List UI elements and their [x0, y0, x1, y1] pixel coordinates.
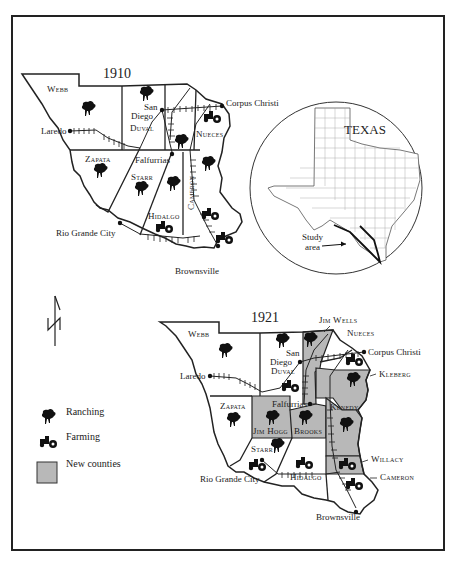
- county-label-hidalgo-1921: Hidalgo: [290, 472, 322, 482]
- map-1921: 1921: [160, 310, 421, 522]
- county-label-cameron-1921: Cameron: [380, 472, 414, 482]
- city-label-diego-1921: Diego: [270, 357, 292, 367]
- city-label-rio-grande-city-1921: Rio Grande City: [200, 474, 260, 484]
- city-label-corpus-christi-1921: Corpus Christi: [368, 347, 421, 357]
- county-label-brooks: Brooks: [294, 426, 322, 436]
- county-label-kenedy: Kenedy: [330, 402, 359, 412]
- map-1910: 1910: [22, 66, 279, 276]
- map-1910-year: 1910: [103, 66, 131, 81]
- legend-label-new-counties: New counties: [66, 458, 121, 469]
- county-label-nueces: Nueces: [196, 129, 223, 139]
- inset-pointer-label-2: area: [305, 242, 320, 252]
- city-label-diego: Diego: [131, 111, 153, 121]
- legend-label-farming: Farming: [66, 431, 100, 442]
- legend-icons: [37, 409, 57, 483]
- city-label-brownsville-1921: Brownsville: [316, 512, 360, 522]
- city-label-falfurrias: Falfurrias: [135, 155, 170, 165]
- city-label-corpus-christi: Corpus Christi: [226, 98, 279, 108]
- texas-inset: TEXAS Study area: [250, 102, 422, 274]
- county-label-webb-1921: Webb: [188, 329, 209, 339]
- county-label-kleberg: Kleberg: [379, 369, 411, 379]
- city-label-laredo-1921: Laredo: [180, 371, 206, 381]
- inset-pointer-label-1: Study: [302, 232, 324, 242]
- county-label-zapata: Zapata: [85, 154, 111, 164]
- county-label-duval-1921: Duval: [271, 366, 295, 376]
- farming-icon: [40, 436, 57, 448]
- city-label-falfurrias-1921: Falfurrias: [272, 399, 307, 409]
- county-label-nueces-1921: Nueces: [347, 328, 374, 338]
- city-label-brownsville: Brownsville: [175, 266, 219, 276]
- new-counties-swatch: [37, 462, 57, 483]
- county-label-cameron: Cameron: [186, 176, 196, 210]
- inset-title: TEXAS: [344, 122, 386, 137]
- map-1921-year: 1921: [251, 310, 279, 325]
- county-label-zapata-1921: Zapata: [220, 401, 246, 411]
- county-label-jim-hogg: Jim Hogg: [253, 426, 288, 436]
- city-label-rio-grande-city: Rio Grande City: [56, 228, 116, 238]
- legend-label-ranching: Ranching: [66, 406, 104, 417]
- county-label-hidalgo: Hidalgo: [148, 211, 180, 221]
- county-label-starr: Starr: [131, 172, 153, 182]
- map-canvas: 1910: [0, 0, 458, 566]
- city-label-laredo: Laredo: [41, 126, 67, 136]
- county-label-duval: Duval: [130, 123, 154, 133]
- ranching-icon: [42, 409, 56, 424]
- county-label-starr-1921: Starr: [251, 444, 273, 454]
- county-label-willacy: Willacy: [371, 454, 404, 464]
- north-arrow: [48, 296, 60, 346]
- county-label-jim-wells: Jim Wells: [319, 315, 357, 325]
- county-label-webb: Webb: [47, 84, 68, 94]
